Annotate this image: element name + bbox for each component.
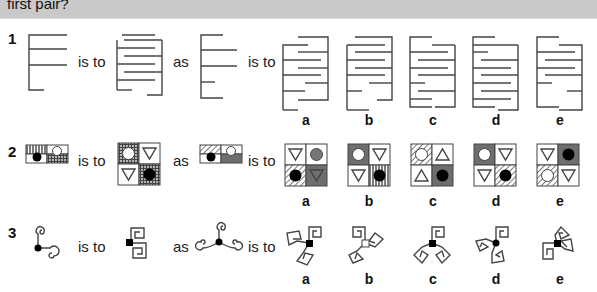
- is-to-label: is to: [248, 53, 276, 70]
- q2-figure-1: [26, 145, 68, 163]
- question-number-2: 2: [8, 143, 16, 160]
- question-number-3: 3: [8, 224, 16, 241]
- q1-figure-3: [201, 35, 241, 100]
- q3-option-c[interactable]: [408, 225, 456, 265]
- q2-figure-3: [200, 145, 242, 163]
- q2-option-label-e: e: [550, 193, 570, 209]
- q1-option-b[interactable]: [347, 37, 393, 112]
- q3-option-label-b: b: [359, 271, 379, 287]
- is-to-label: is to: [248, 152, 276, 169]
- q1-option-label-e: e: [550, 112, 570, 128]
- q3-option-label-a: a: [296, 271, 316, 287]
- q2-figure-2: [118, 143, 160, 185]
- is-to-label: is to: [78, 238, 106, 255]
- q1-option-label-c: c: [423, 112, 443, 128]
- q2-option-a[interactable]: [285, 144, 327, 186]
- question-number-1: 1: [8, 30, 16, 47]
- q2-option-c[interactable]: [411, 144, 453, 186]
- q1-option-d[interactable]: [473, 37, 519, 112]
- q3-option-b[interactable]: [345, 225, 389, 265]
- q3-option-d[interactable]: [472, 225, 516, 265]
- q3-figure-1: [32, 226, 62, 266]
- q1-figure-2: [117, 35, 162, 95]
- q1-option-e[interactable]: [537, 37, 583, 112]
- q2-option-label-b: b: [359, 193, 379, 209]
- q2-option-b[interactable]: [348, 144, 390, 186]
- as-label: as: [173, 152, 189, 169]
- q2-option-label-d: d: [486, 193, 506, 209]
- q3-figure-3: [195, 224, 243, 258]
- q2-option-d[interactable]: [474, 144, 516, 186]
- question-header-text: first pair?: [7, 0, 69, 12]
- question-header: first pair?: [0, 0, 597, 19]
- is-to-label: is to: [248, 238, 276, 255]
- q3-option-e[interactable]: [535, 225, 581, 265]
- q2-option-label-c: c: [423, 193, 443, 209]
- q1-option-label-b: b: [359, 112, 379, 128]
- q1-figure-1: [29, 35, 69, 90]
- q2-option-e[interactable]: [537, 144, 579, 186]
- is-to-label: is to: [78, 53, 106, 70]
- is-to-label: is to: [78, 152, 106, 169]
- q1-option-label-a: a: [296, 112, 316, 128]
- q2-option-label-a: a: [296, 193, 316, 209]
- q1-option-label-d: d: [486, 112, 506, 128]
- as-label: as: [173, 238, 189, 255]
- as-label: as: [173, 53, 189, 70]
- q3-option-label-e: e: [550, 271, 570, 287]
- q3-option-label-d: d: [486, 271, 506, 287]
- q1-option-c[interactable]: [410, 37, 456, 112]
- q1-option-a[interactable]: [283, 37, 329, 102]
- q3-option-a[interactable]: [285, 225, 325, 265]
- q3-figure-2: [122, 226, 150, 262]
- q3-option-label-c: c: [423, 271, 443, 287]
